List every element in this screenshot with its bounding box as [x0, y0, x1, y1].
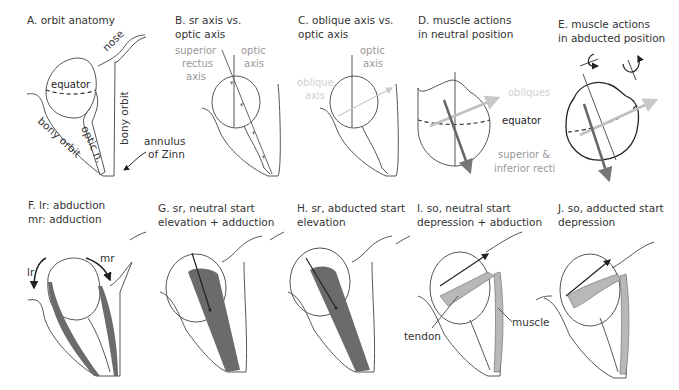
j-so-tendon [568, 274, 620, 308]
eye-muscle-diagram: A. orbit anatomy nose equator bony orbit… [0, 0, 679, 390]
panel-f-title-1: F. lr: abduction [28, 199, 105, 211]
panel-j-title-1: J. so, adducted start [557, 202, 664, 214]
i-nose-line [486, 232, 522, 252]
optic-axis-label-2: axis [244, 58, 264, 69]
oblique-axis-arrow-icon [338, 88, 392, 116]
annulus-label-2: of Zinn [148, 148, 185, 160]
panel-d: D. muscle actions in neutral position ob… [418, 14, 555, 174]
f-nose-line [110, 262, 132, 286]
panel-j: J. so, adducted start depression [536, 202, 664, 378]
j-nose-line [612, 242, 654, 268]
c-optic-nerve-outline [362, 126, 388, 174]
optic-axis-label-1: optic [241, 45, 266, 56]
lr-label: lr [27, 266, 35, 278]
panel-g-title-1: G. sr, neutral start [158, 202, 255, 214]
mr-label: mr [100, 252, 115, 264]
panel-i-title-1: I. so, neutral start [417, 202, 511, 214]
bony-orbit-right-label: bony orbit [118, 91, 130, 145]
panel-a: A. orbit anatomy nose equator bony orbit… [27, 14, 185, 176]
j-optic-nerve-outline [600, 318, 618, 372]
panel-c-title-1: C. oblique axis vs. [298, 14, 393, 26]
g-left-nose-line [130, 232, 146, 240]
muscle-label: muscle [512, 316, 550, 328]
panel-d-title-2: in neutral position [418, 28, 513, 40]
recti-label-1: superior & [498, 149, 550, 160]
d-globe-outline [418, 80, 490, 166]
medial-rectus-muscle [98, 286, 118, 376]
d-equator-label: equator [502, 115, 542, 126]
sr-axis-label-1: superior [175, 45, 217, 56]
obliques-label: obliques [508, 87, 550, 98]
bony-orbit-left-label: bony orbit [36, 115, 84, 160]
e-equator-line [568, 106, 636, 132]
c-optic-axis-label-2: axis [363, 58, 383, 69]
equator-label: equator [51, 79, 91, 90]
i-left-nose-line [396, 236, 410, 244]
panel-b: B. sr axis vs. optic axis superior rectu… [175, 14, 280, 176]
panel-f-title-2: mr: adduction [28, 213, 102, 225]
c-optic-axis-label-1: optic [360, 45, 385, 56]
sr-axis-label-3: axis [186, 71, 206, 82]
sr-axis-label-2: rectus [182, 58, 213, 69]
g-superior-rectus-muscle [188, 268, 240, 372]
panel-h-title-2: elevation [297, 216, 346, 228]
g-nose-line [222, 236, 262, 262]
i-so-tendon [440, 272, 494, 306]
lr-rotation-arrow-icon [34, 258, 46, 288]
h-vector-end-dot [335, 307, 338, 310]
panel-h-title-1: H. sr, abducted start [297, 202, 405, 214]
e-globe-outline [566, 83, 639, 161]
panel-h: H. sr, abducted start elevation [270, 202, 405, 372]
panel-i: I. so, neutral start depression + abduct… [396, 202, 550, 376]
lateral-rectus-muscle [48, 282, 100, 376]
oblique-axis-label-2: axis [305, 90, 325, 101]
recti-label-2: inferior recti [494, 163, 555, 174]
panel-b-title-2: optic axis [175, 28, 225, 40]
i-optic-nerve-outline [470, 320, 490, 370]
panel-d-title-1: D. muscle actions [418, 14, 511, 26]
panel-i-title-2: depression + abduction [417, 216, 542, 228]
optic-nerve-outline [244, 126, 270, 174]
panel-e-title-1: E. muscle actions [558, 18, 650, 30]
panel-g: G. sr, neutral start elevation + adducti… [130, 202, 274, 372]
c-globe-outline [330, 76, 378, 128]
tendon-label: tendon [404, 330, 441, 342]
annulus-label-1: annulus [144, 135, 185, 147]
panel-j-title-2: depression [558, 216, 615, 228]
sr-axis-arrowheads-icon [230, 81, 265, 159]
h-left-nose-line [270, 232, 284, 240]
oblique-axis-label-1: oblique [297, 77, 334, 88]
torsion-axis-2 [628, 60, 636, 80]
optic-nerve-label: optic n. [79, 124, 106, 165]
e-recti-arrow-icon [584, 104, 609, 180]
panel-c: C. oblique axis vs. optic axis optic axi… [297, 14, 398, 176]
h-nose-line [352, 236, 392, 262]
panel-a-title: A. orbit anatomy [27, 14, 115, 26]
panel-e-title-2: in abducted position [558, 32, 665, 44]
panel-b-title-1: B. sr axis vs. [175, 14, 241, 26]
rotation-icon-2 [623, 56, 639, 72]
annulus-arrow-icon [124, 152, 146, 170]
nose-line-inner [117, 37, 146, 62]
i-so-muscle [494, 272, 503, 372]
equator-line [46, 90, 96, 94]
g-vector-end-dot [209, 309, 212, 312]
h-superior-rectus-muscle [310, 266, 370, 372]
panel-f: F. lr: abduction mr: adduction lr mr [27, 199, 132, 376]
panel-c-title-2: optic axis [298, 28, 348, 40]
d-equator-line [418, 120, 490, 125]
c-orbit-outline [320, 84, 398, 176]
j-so-muscle [620, 274, 629, 374]
panel-e: E. muscle actions in abducted position [558, 18, 665, 180]
panel-g-title-2: elevation + adduction [158, 216, 274, 228]
